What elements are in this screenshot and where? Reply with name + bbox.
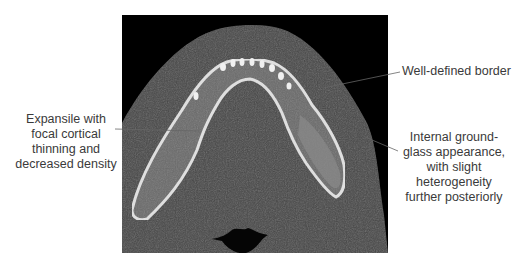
leader-line-ground-glass xyxy=(365,137,398,151)
annotation-expansile: Expansile with focal cortical thinning a… xyxy=(12,112,120,172)
annotation-ground-glass: Internal ground-glass appearance, with s… xyxy=(397,130,511,205)
leader-line-well-defined xyxy=(323,72,400,88)
annotation-well-defined-border: Well-defined border xyxy=(402,64,511,79)
figure: Expansile with focal cortical thinning a… xyxy=(0,0,529,264)
leader-line-expansile xyxy=(115,129,200,131)
